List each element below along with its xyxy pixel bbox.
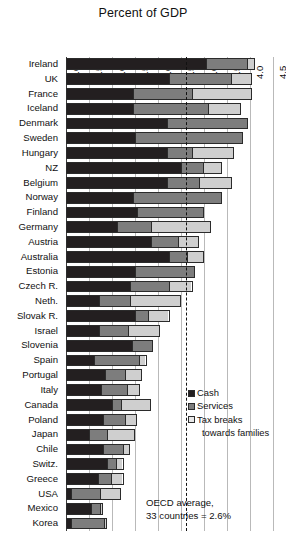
category-label-sweden: Sweden — [0, 131, 62, 146]
bar-segment-tax — [100, 489, 120, 499]
stacked-bar — [66, 429, 135, 441]
x-tick-label-4-5: 4.5 — [277, 53, 286, 79]
category-label-france: France — [0, 87, 62, 102]
bar-segment-services — [167, 148, 192, 158]
y-axis-category-labels: IrelandUKFranceIcelandDenmarkSwedenHunga… — [0, 57, 62, 531]
stacked-bar — [66, 340, 153, 352]
bar-segment-services — [101, 385, 128, 395]
bar-row — [66, 57, 273, 72]
bar-segment-cash — [67, 504, 91, 514]
stacked-bar — [66, 503, 103, 515]
category-label-ireland: Ireland — [0, 57, 62, 72]
bar-segment-cash — [67, 356, 94, 366]
bar-segment-tax — [111, 474, 122, 484]
stacked-bar — [66, 221, 211, 233]
legend-label-tax-breaks-continuation: towards families — [188, 427, 284, 439]
bar-row — [66, 472, 273, 487]
stacked-bar — [66, 162, 222, 174]
category-label-greece: Greece — [0, 472, 62, 487]
bar-segment-cash — [67, 133, 135, 143]
stacked-bar — [66, 295, 181, 307]
bar-row — [66, 250, 273, 265]
stacked-bar — [66, 177, 232, 189]
category-label-austria: Austria — [0, 235, 62, 250]
bar-segment-cash — [67, 104, 133, 114]
bar-segment-tax — [231, 74, 251, 84]
bar-segment-cash — [67, 208, 137, 218]
bar-segment-services — [105, 370, 125, 380]
bar-segment-tax — [192, 89, 251, 99]
stacked-bar — [66, 518, 107, 530]
category-label-czech-r: Czech R. — [0, 279, 62, 294]
bar-segment-cash — [67, 252, 169, 262]
bar-segment-cash — [67, 415, 103, 425]
bar-segment-services — [133, 193, 222, 203]
bar-row — [66, 235, 273, 250]
bar-segment-cash — [67, 267, 135, 277]
bar-segment-cash — [67, 163, 181, 173]
legend-label-tax-breaks: Tax breaks — [197, 414, 242, 426]
bar-segment-services — [103, 445, 123, 455]
x-axis-tick-labels: 0.00.51.01.52.02.53.03.54.04.5 — [0, 26, 286, 54]
bar-row — [66, 87, 273, 102]
bar-segment-cash — [67, 178, 167, 188]
stacked-bar — [66, 399, 151, 411]
category-label-chile: Chile — [0, 442, 62, 457]
bar-segment-tax — [127, 385, 138, 395]
bar-segment-cash — [67, 385, 101, 395]
bar-segment-services — [91, 504, 100, 514]
gridline-4-5 — [273, 57, 274, 531]
category-label-hungary: Hungary — [0, 146, 62, 161]
bar-segment-cash — [67, 193, 133, 203]
category-label-slovenia: Slovenia — [0, 338, 62, 353]
bar-row — [66, 190, 273, 205]
oecd-average-line1: OECD average, — [146, 497, 282, 510]
category-label-usa: USA — [0, 487, 62, 502]
bar-segment-tax — [148, 311, 168, 321]
stacked-bar — [66, 103, 241, 115]
category-label-neth: Neth. — [0, 294, 62, 309]
bar-segment-tax — [128, 326, 160, 336]
stacked-bar — [66, 310, 170, 322]
bar-segment-services — [151, 237, 178, 247]
bar-segment-services — [169, 74, 230, 84]
bar-row — [66, 294, 273, 309]
stacked-bar — [66, 384, 140, 396]
bar-row — [66, 264, 273, 279]
bar-segment-cash — [67, 400, 112, 410]
category-label-germany: Germany — [0, 220, 62, 235]
bar-row — [66, 324, 273, 339]
bar-segment-tax — [121, 400, 150, 410]
bar-segment-tax — [100, 504, 102, 514]
category-label-norway: Norway — [0, 190, 62, 205]
bar-segment-services — [117, 222, 151, 232]
bar-segment-services — [107, 459, 116, 469]
bar-segment-services — [133, 89, 192, 99]
bar-segment-services — [137, 208, 203, 218]
bar-segment-tax — [247, 59, 254, 69]
bar-segment-cash — [67, 148, 167, 158]
category-label-finland: Finland — [0, 205, 62, 220]
stacked-bar — [66, 355, 147, 367]
legend-label-cash: Cash — [197, 387, 219, 399]
bar-segment-services — [112, 400, 121, 410]
bar-segment-services — [89, 430, 107, 440]
stacked-bar — [66, 369, 142, 381]
legend: Cash Services Tax breaks towards familie… — [188, 387, 284, 440]
bar-row — [66, 368, 273, 383]
bar-segment-tax — [107, 430, 134, 440]
bar-segment-cash — [67, 459, 107, 469]
category-label-canada: Canada — [0, 398, 62, 413]
bar-segment-tax — [187, 252, 203, 262]
bar-row — [66, 353, 273, 368]
legend-swatch-tax-breaks-icon — [188, 416, 195, 423]
stacked-bar — [66, 266, 195, 278]
chart-title: Percent of GDP — [0, 6, 286, 20]
bar-segment-services — [167, 178, 199, 188]
category-label-switz: Switz. — [0, 457, 62, 472]
bar-segment-cash — [67, 341, 132, 351]
bar-segment-cash — [67, 119, 167, 129]
bar-segment-tax — [139, 356, 146, 366]
bar-segment-services — [135, 133, 242, 143]
stacked-bar — [66, 147, 234, 159]
